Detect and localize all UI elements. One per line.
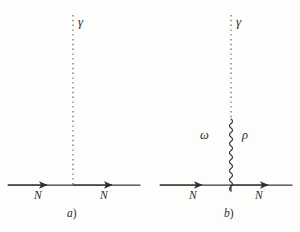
panel-b-photon-label: γ: [236, 15, 241, 28]
panel-b-caption-paren: ): [230, 207, 234, 219]
panel-a-outgoing-nucleon-label: N: [100, 190, 108, 202]
panel-b-rho-label: ρ: [242, 129, 248, 142]
panel-a-caption: a): [67, 208, 77, 220]
panel-b-omega-label: ω: [200, 129, 209, 142]
panel-a-caption-paren: ): [73, 207, 77, 219]
panel-b-outgoing-nucleon-label: N: [255, 190, 263, 202]
panel-a-photon-label: γ: [78, 15, 83, 28]
panel-a-incoming-nucleon-label: N: [34, 190, 42, 202]
figure-root: γ N N a) γ ω ρ N N b): [0, 0, 300, 232]
panel-b-caption: b): [224, 208, 234, 220]
panel-b-meson-propagator: [229, 119, 232, 191]
panel-b-incoming-nucleon-label: N: [189, 190, 197, 202]
